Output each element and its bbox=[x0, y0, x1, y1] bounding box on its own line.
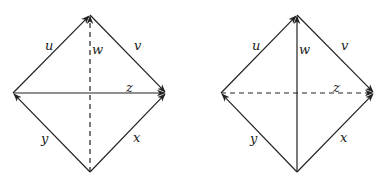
edge-y bbox=[14, 94, 90, 172]
edge-label-w: w bbox=[92, 42, 103, 57]
edge-x bbox=[297, 94, 373, 172]
edge-label-z: z bbox=[332, 80, 340, 95]
edge-label-v: v bbox=[341, 38, 349, 53]
diagram-right: uvzyxw bbox=[221, 15, 373, 172]
edge-label-x: x bbox=[133, 130, 141, 145]
edge-label-w: w bbox=[299, 42, 310, 57]
edge-label-y: y bbox=[249, 131, 258, 146]
edge-label-u: u bbox=[45, 38, 53, 53]
edge-x bbox=[90, 94, 165, 172]
edge-label-y: y bbox=[40, 131, 49, 146]
edge-label-x: x bbox=[340, 130, 348, 145]
edge-label-v: v bbox=[134, 38, 142, 53]
quiver-diagrams: uvzyxw uvzyxw bbox=[0, 0, 383, 182]
edge-label-u: u bbox=[252, 38, 260, 53]
edge-u bbox=[221, 16, 296, 93]
edge-y bbox=[222, 94, 297, 172]
edge-u bbox=[13, 16, 89, 93]
diagram-left: uvzyxw bbox=[13, 15, 165, 172]
edge-label-z: z bbox=[125, 80, 133, 95]
